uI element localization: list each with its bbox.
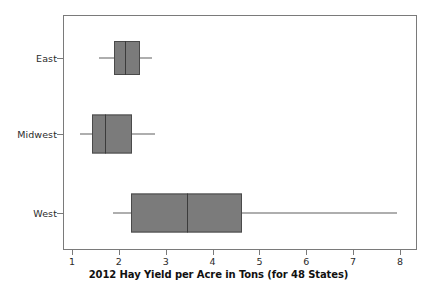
- x-tick-1: [72, 250, 73, 255]
- x-tick-3: [166, 250, 167, 255]
- y-tick-east: [57, 58, 63, 59]
- x-tick-label-2: 2: [116, 256, 122, 267]
- chart-page: East Midwest West 12345678 2012 Hay Yiel…: [0, 0, 437, 296]
- x-tick-4: [213, 250, 214, 255]
- y-axis-label-column: East Midwest West: [0, 0, 57, 296]
- x-tick-label-6: 6: [303, 256, 309, 267]
- x-tick-label-1: 1: [69, 256, 75, 267]
- box-east: [114, 41, 140, 75]
- whisker-high-west: [242, 213, 397, 214]
- x-tick-5: [259, 250, 260, 255]
- whisker-low-west: [113, 213, 131, 214]
- y-category-label-midwest: Midwest: [17, 129, 57, 140]
- x-tick-label-5: 5: [256, 256, 262, 267]
- x-tick-6: [306, 250, 307, 255]
- median-line-east: [125, 41, 126, 75]
- whisker-low-east: [99, 58, 114, 59]
- box-midwest: [92, 115, 132, 154]
- x-tick-label-7: 7: [350, 256, 356, 267]
- x-axis-title: 2012 Hay Yield per Acre in Tons (for 48 …: [0, 269, 437, 280]
- y-category-label-west: West: [33, 208, 57, 219]
- whisker-high-midwest: [132, 134, 155, 135]
- x-tick-2: [119, 250, 120, 255]
- y-tick-midwest: [57, 134, 63, 135]
- median-line-midwest: [105, 115, 106, 154]
- x-tick-label-8: 8: [397, 256, 403, 267]
- x-tick-label-4: 4: [210, 256, 216, 267]
- x-tick-8: [400, 250, 401, 255]
- whisker-high-east: [140, 58, 152, 59]
- y-tick-west: [57, 213, 63, 214]
- x-tick-7: [353, 250, 354, 255]
- x-tick-label-3: 3: [163, 256, 169, 267]
- whisker-low-midwest: [80, 134, 92, 135]
- y-category-label-east: East: [36, 53, 57, 64]
- median-line-west: [187, 194, 188, 233]
